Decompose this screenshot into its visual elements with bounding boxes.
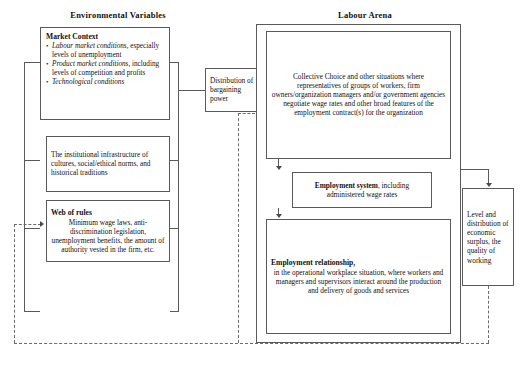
box-market-context: Market Context Labour market conditions,…: [40, 27, 170, 120]
market-context-title: Market Context: [46, 32, 164, 41]
box-collective-choice: Collective Choice and other situations w…: [266, 31, 451, 159]
employment-system-text: Employment system, including administere…: [297, 181, 427, 199]
line-arena-to-outcomes-v: [488, 169, 489, 184]
market-context-bullets: Labour market conditions, especially lev…: [46, 42, 164, 87]
dashed-loop-into-web-of-rules: [14, 224, 41, 225]
box-web-of-rules: Web of rules Minimum wage laws, anti-dis…: [46, 200, 170, 262]
heading-labour-arena: Labour Arena: [285, 10, 445, 20]
bullet-emphasis: Technological conditions: [52, 78, 124, 86]
line-arena-to-outcomes-h: [461, 169, 489, 170]
bullet-emphasis: Product market conditions,: [52, 60, 130, 68]
outcomes-text: Level and distribution of economic surpl…: [467, 210, 509, 265]
box-distribution-of-bargaining-power: Distribution of bargaining power: [205, 68, 260, 112]
left-bus-stub-market: [24, 62, 40, 63]
dashed-loop-down-from-outcomes: [488, 286, 489, 343]
box-employment-relationship: Employment relationship, in the operatio…: [266, 219, 451, 334]
institutional-text: The institutional infrastructure of cult…: [51, 150, 165, 177]
market-context-bullet: Labour market conditions, especially lev…: [46, 42, 164, 60]
right-bus-vertical: [178, 62, 179, 312]
box-institutional-infrastructure: The institutional infrastructure of cult…: [46, 136, 170, 192]
right-bus-stub-institutional: [170, 160, 179, 161]
arrow-system-to-relationship: [276, 214, 282, 218]
right-bus-stub-market: [170, 62, 179, 63]
dashed-loop-bottom: [14, 343, 489, 344]
dashed-feedback-riser: [238, 113, 239, 343]
diagram-canvas: Environmental Variables Labour Arena Mar…: [0, 0, 522, 372]
bargaining-bus-link: [191, 90, 205, 91]
arrow-dashed-into-web-of-rules: [40, 221, 44, 227]
left-bus-stub-web: [24, 228, 40, 229]
right-bus-to-bargaining: [178, 90, 191, 91]
employment-relationship-title: Employment relationship,: [271, 258, 446, 267]
collective-choice-text: Collective Choice and other situations w…: [271, 72, 446, 118]
web-of-rules-text: Minimum wage laws, anti-discrimination l…: [51, 218, 165, 254]
employment-relationship-text: in the operational workplace situation, …: [271, 268, 446, 295]
bullet-emphasis: Labour market conditions,: [52, 42, 128, 50]
market-context-bullet: Technological conditions: [46, 78, 164, 87]
box-outcomes: Level and distribution of economic surpl…: [462, 188, 514, 286]
arrow-collective-to-system: [276, 166, 282, 170]
employment-system-title: Employment system: [315, 181, 378, 190]
arrow-arena-to-outcomes: [486, 183, 492, 187]
left-bus-bottom: [24, 311, 40, 312]
web-of-rules-title: Web of rules: [51, 208, 165, 217]
bargaining-text: Distribution of bargaining power: [210, 76, 255, 103]
box-employment-system: Employment system, including administere…: [292, 172, 432, 208]
dashed-loop-up-left: [14, 224, 15, 343]
right-bus-bottom: [170, 311, 179, 312]
heading-environmental-variables: Environmental Variables: [38, 10, 198, 20]
market-context-bullet: Product market conditions, including lev…: [46, 60, 164, 78]
left-bus-stub-institutional: [24, 160, 40, 161]
right-bus-stub-web: [170, 228, 179, 229]
left-bus-vertical: [24, 62, 25, 312]
